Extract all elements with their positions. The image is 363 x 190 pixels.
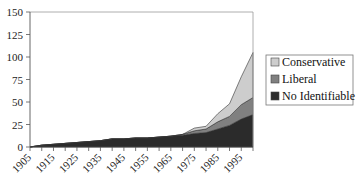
y-axis-ticks: 0255075100125150 xyxy=(7,6,31,153)
y-tick-label: 75 xyxy=(12,74,24,86)
x-tick-label: 1935 xyxy=(80,151,104,175)
legend: Conservative Liberal No Identifiable xyxy=(266,55,355,105)
x-tick-label: 1975 xyxy=(174,151,198,175)
x-axis-ticks: 1905191519251935194519551965197519851995 xyxy=(9,147,253,175)
legend-swatch-no-identifiable xyxy=(271,92,279,100)
x-tick-label: 1945 xyxy=(103,151,127,175)
x-tick-label: 1965 xyxy=(150,151,174,175)
y-tick-label: 25 xyxy=(12,119,24,131)
y-tick-label: 150 xyxy=(7,6,24,18)
x-tick-label: 1955 xyxy=(127,151,151,175)
x-tick-label: 1915 xyxy=(33,151,57,175)
y-tick-label: 100 xyxy=(7,51,24,63)
legend-label-conservative: Conservative xyxy=(282,55,345,69)
legend-item-conservative: Conservative xyxy=(271,55,345,69)
y-tick-label: 0 xyxy=(18,141,24,153)
x-tick-label: 1925 xyxy=(56,151,80,175)
legend-swatch-conservative xyxy=(271,58,279,66)
x-tick-label: 1995 xyxy=(221,151,245,175)
stacked-area-chart: 0255075100125150 19051915192519351945195… xyxy=(0,0,363,190)
legend-swatch-liberal xyxy=(271,75,279,83)
plot-areas xyxy=(30,53,253,148)
y-tick-label: 125 xyxy=(7,29,24,41)
legend-label-liberal: Liberal xyxy=(282,72,317,86)
legend-item-no-identifiable: No Identifiable xyxy=(271,89,355,103)
legend-label-no-identifiable: No Identifiable xyxy=(282,89,355,103)
y-tick-label: 50 xyxy=(12,96,24,108)
x-tick-label: 1905 xyxy=(9,151,33,175)
x-tick-label: 1985 xyxy=(197,151,221,175)
